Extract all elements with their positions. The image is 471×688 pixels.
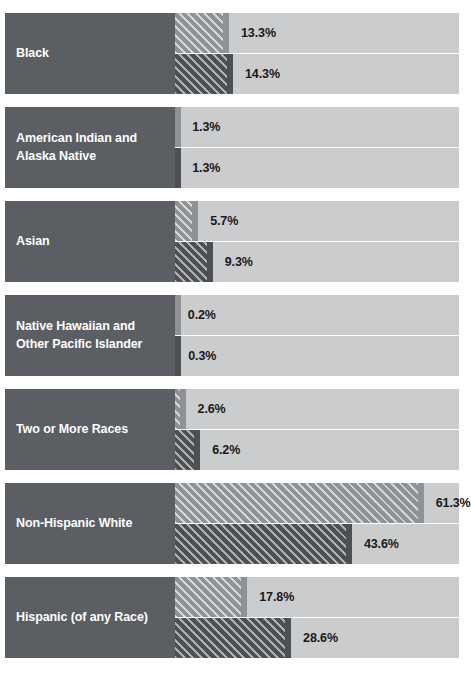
bar-track-upper: 0.2% [175,295,459,335]
bar-fill-lower [175,54,233,94]
bar-fill-upper [175,13,229,53]
bar-pair: 13.3%14.3% [175,13,459,94]
chart-row-group: Hispanic (of any Race)17.8%28.6% [5,577,459,658]
bar-fill-lower [175,336,181,376]
bar-fill-lower [175,430,200,470]
bar-value-upper: 5.7% [210,214,238,228]
bar-fill-lower [175,242,213,282]
bar-fill-lower [175,618,291,658]
bar-pair: 61.3%43.6% [175,483,459,564]
category-label-block: Hispanic (of any Race) [5,577,175,658]
bar-track-lower: 28.6% [175,618,459,658]
bar-value-lower: 14.3% [245,67,280,81]
bar-pair: 5.7%9.3% [175,201,459,282]
category-label-block: Native Hawaiian and Other Pacific Island… [5,295,175,376]
category-label: Asian [16,233,50,251]
bar-fill-upper [175,483,424,523]
category-label-block: Non-Hispanic White [5,483,175,564]
category-label-block: Black [5,13,175,94]
category-label: Native Hawaiian and Other Pacific Island… [16,318,142,354]
bar-track-lower: 0.3% [175,336,459,376]
bar-fill-lower [175,524,352,564]
chart-row-group: Black13.3%14.3% [5,13,459,94]
bar-track-lower: 43.6% [175,524,459,564]
bar-track-lower: 6.2% [175,430,459,470]
category-label: Hispanic (of any Race) [16,609,148,627]
bar-fill-upper [175,389,186,429]
bar-fill-upper [175,295,181,335]
bar-fill-upper [175,577,247,617]
bar-pair: 1.3%1.3% [175,107,459,188]
category-label: Black [16,45,49,63]
bar-value-upper: 61.3% [436,496,471,510]
bar-value-upper: 17.8% [259,590,294,604]
bar-pair: 2.6%6.2% [175,389,459,470]
bar-value-lower: 6.2% [212,443,240,457]
bar-value-upper: 2.6% [198,402,226,416]
chart-row-group: Two or More Races2.6%6.2% [5,389,459,470]
category-label-block: Two or More Races [5,389,175,470]
bar-track-upper: 5.7% [175,201,459,241]
bar-track-upper: 1.3% [175,107,459,147]
chart-row-group: Asian5.7%9.3% [5,201,459,282]
bar-value-upper: 13.3% [241,26,276,40]
chart-row-group: Non-Hispanic White61.3%43.6% [5,483,459,564]
bar-value-lower: 43.6% [364,537,399,551]
bar-track-lower: 14.3% [175,54,459,94]
category-label: American Indian and Alaska Native [16,130,137,166]
bar-fill-upper [175,107,181,147]
bar-pair: 17.8%28.6% [175,577,459,658]
bar-track-upper: 13.3% [175,13,459,53]
bar-value-lower: 9.3% [225,255,253,269]
bar-value-lower: 0.3% [188,349,216,363]
category-label: Non-Hispanic White [16,515,132,533]
bar-value-upper: 0.2% [188,308,216,322]
bar-track-upper: 61.3% [175,483,459,523]
category-label-block: American Indian and Alaska Native [5,107,175,188]
bar-pair: 0.2%0.3% [175,295,459,376]
bar-value-upper: 1.3% [192,120,220,134]
category-label-block: Asian [5,201,175,282]
bar-track-upper: 2.6% [175,389,459,429]
bar-value-lower: 1.3% [192,161,220,175]
bar-track-lower: 1.3% [175,148,459,188]
chart-row-group: Native Hawaiian and Other Pacific Island… [5,295,459,376]
category-label: Two or More Races [16,421,128,439]
chart-row-group: American Indian and Alaska Native1.3%1.3… [5,107,459,188]
bar-fill-lower [175,148,181,188]
bar-value-lower: 28.6% [303,631,338,645]
bar-fill-upper [175,201,198,241]
bar-track-lower: 9.3% [175,242,459,282]
bar-track-upper: 17.8% [175,577,459,617]
